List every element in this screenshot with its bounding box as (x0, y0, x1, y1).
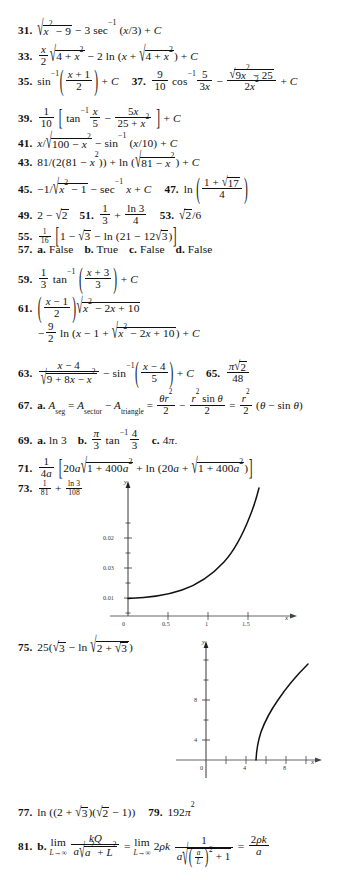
sublabel-b: b. (78, 434, 87, 446)
answer-item-77: 77. ln ((2 + √3)(√2 − 1)) 79. 192π2 (18, 806, 195, 818)
radical: √x2 − 9 (37, 24, 72, 36)
sublabel-c: c. (152, 434, 160, 446)
answer-item-59: 59. 13 tan−1 (x + 33) + C (18, 267, 138, 290)
answer-number-53: 53. (160, 209, 174, 221)
figure-73-xtick-0.5: 0.5 (162, 620, 170, 627)
sublabel-b: b. (84, 243, 93, 255)
answer-57d: False (188, 243, 213, 255)
answer-number-55: 55. (18, 230, 32, 242)
answer-item-35: 35. sin−1(x + 12) + C 37. 910 cos−153x −… (18, 68, 298, 92)
answer-item-61: 61. (x − 12)√x2 − 2x + 10 (18, 296, 140, 319)
answer-item-41: 41. x/√100 − x2 − sin−1 (x/10) + C (18, 137, 177, 149)
answer-number-43: 43. (18, 156, 32, 168)
answer-number-49: 49. (18, 209, 32, 221)
figure-75-y-axis-label: y (202, 638, 205, 646)
figure-73-xtick-0: 0 (122, 620, 125, 627)
answer-number-65: 65. (206, 367, 220, 379)
sublabel-b: b. (37, 840, 46, 852)
answer-number-33: 33. (18, 50, 32, 62)
answer-number-59: 59. (18, 273, 32, 285)
answer-item-43: 43. 81/(2(81 − x2)) + ln (√81 − x2) + C (18, 156, 200, 168)
answer-item-69: 69. a. ln 3 b. π3 tan−143 c. 4π. (18, 428, 177, 451)
answer-number-35: 35. (18, 75, 32, 87)
answer-number-75: 75. (18, 641, 32, 653)
answer-item-75: 75. 25(√3 − ln √2 + √3) (18, 640, 133, 653)
answer-number-73: 73. (18, 482, 32, 494)
figure-75-xtick-4: 4 (243, 764, 246, 771)
answer-number-37: 37. (132, 75, 146, 87)
figure-73-ytick-0.03: 0.03 (103, 564, 114, 571)
answer-item-81: 81. b. limL→∞ kQa√a2 + L2 = limL→∞ 2ρk 1… (18, 833, 270, 865)
answer-number-45: 45. (18, 183, 32, 195)
answer-number-31: 31. (18, 24, 32, 36)
figure-73-xtick-1: 1 (205, 620, 208, 627)
answer-key-page: 31. √x2 − 9 − 3 sec−1 (x/3) + C 33. x2√4… (0, 0, 351, 886)
answer-item-67: 67. a. Aseg = Asector − Atriangle = θr22… (18, 394, 303, 417)
answer-item-31: 31. √x2 − 9 − 3 sec−1 (x/3) + C (18, 24, 162, 36)
answer-number-39: 39. (18, 112, 32, 124)
answer-item-39: 39. 110 [ tan−1x5 − 5x25 + x2 ] + C (18, 106, 181, 129)
figure-73-curve (128, 488, 259, 599)
answer-item-33: 33. x2√4 + x2 − 2 ln (x + √4 + x2) + C (18, 44, 198, 67)
figure-75-xtick-8: 8 (283, 764, 286, 771)
answer-item-61-cont: −92 ln (x − 1 + √x2 − 2x + 10) + C (38, 321, 200, 344)
answer-number-79: 79. (148, 806, 162, 818)
answer-number-57: 57. (18, 243, 32, 255)
answer-number-71: 71. (18, 462, 32, 474)
figure-73: y x 0.03 0.02 0.01 0 0.5 1 1.5 (100, 478, 305, 633)
answer-item-45: 45. −1/√x2 − 1 − sec−1 x + C 47. ln (1 +… (18, 176, 248, 200)
figure-73-ytick-0.02: 0.02 (103, 534, 114, 541)
figure-75-ytick-4: 4 (194, 736, 197, 743)
answer-number-63: 63. (18, 367, 32, 379)
answer-57c: False (140, 243, 165, 255)
sublabel-a: a. (37, 434, 46, 446)
answer-number-81: 81. (18, 840, 32, 852)
answer-number-69: 69. (18, 434, 32, 446)
sublabel-c: c. (129, 243, 137, 255)
figure-73-ytick-0.01: 0.01 (103, 594, 114, 601)
answer-item-57: 57. a. False b. True c. False d. False (18, 244, 212, 255)
answer-number-41: 41. (18, 137, 32, 149)
answer-number-61: 61. (18, 302, 32, 314)
figure-75-xtick-0: 0 (200, 764, 203, 771)
figure-73-svg (100, 478, 305, 633)
figure-75-ytick-8: 8 (194, 696, 197, 703)
figure-73-xtick-1.5: 1.5 (242, 620, 250, 627)
figure-75-curve (256, 664, 308, 760)
figure-73-x-axis-label: x (285, 614, 288, 622)
answer-number-67: 67. (18, 399, 32, 411)
answer-number-51: 51. (80, 209, 94, 221)
answer-item-73: 73. 181 + ln 3108 (18, 480, 84, 497)
figure-73-y-axis-label: y (124, 478, 127, 486)
figure-75: y x 8 4 0 4 8 (168, 638, 343, 788)
answer-number-47: 47. (164, 183, 178, 195)
sublabel-a: a. (37, 399, 45, 411)
answer-item-63: 63. x − 4√9 + 8x − x2 − sin−1(x − 45) + … (18, 360, 250, 384)
answer-57b: True (97, 243, 119, 255)
answer-57a: False (49, 243, 74, 255)
answer-number-77: 77. (18, 806, 32, 818)
answer-item-71: 71. 14a [20a√1 + 400a2 + ln (20a + √1 + … (18, 456, 253, 479)
sublabel-d: d. (175, 243, 184, 255)
figure-75-x-axis-label: x (311, 758, 314, 766)
figure-75-svg (168, 638, 343, 788)
sublabel-a: a. (37, 243, 46, 255)
